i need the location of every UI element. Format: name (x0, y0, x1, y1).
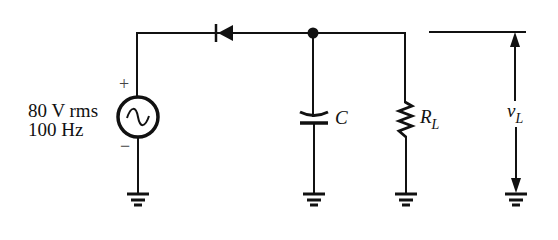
vl-arrow-down-head (511, 178, 521, 193)
capacitor-label: C (335, 107, 348, 128)
ac-source-icon (118, 97, 158, 137)
vl-arrow-up-head (510, 32, 520, 47)
diode-icon (216, 24, 233, 42)
junction-dot (308, 28, 319, 39)
ground-icon (505, 194, 527, 205)
ground-icon (395, 194, 417, 205)
source-voltage-label: 80 V rms (28, 100, 98, 121)
source-plus-label: + (119, 74, 129, 95)
top-wire (137, 33, 405, 102)
resistor-icon (399, 102, 412, 137)
output-label-sub: L (515, 111, 523, 126)
output-voltage-label: vL (507, 100, 523, 123)
source-frequency-label: 100 Hz (28, 119, 83, 140)
resistor-label-sub: L (432, 117, 440, 132)
resistor-label-main: R (420, 106, 432, 127)
ground-icon (303, 194, 325, 205)
resistor-label: RL (420, 106, 439, 129)
source-minus-label: − (120, 136, 130, 157)
ground-icon (127, 194, 149, 205)
